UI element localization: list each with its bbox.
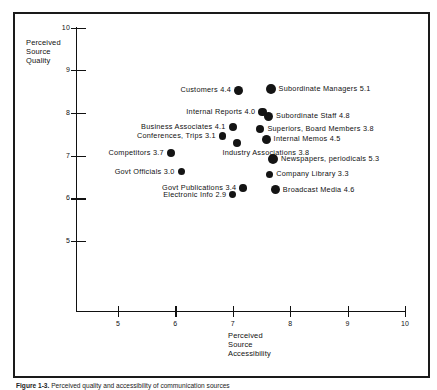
- x-tick-label-7: 7: [223, 320, 243, 327]
- data-point-marker: [239, 184, 247, 192]
- data-point-marker: [234, 86, 243, 95]
- data-point-marker: [233, 139, 241, 147]
- x-tick-7: [233, 306, 234, 317]
- data-point-label: Superiors, Board Members 3.8: [267, 125, 373, 133]
- data-point-marker: [219, 132, 226, 139]
- data-point-marker: [256, 125, 264, 133]
- data-point-label: Customers 4.4: [0, 86, 231, 94]
- data-point-label: Competitors 3.7: [0, 149, 164, 157]
- x-tick-label-8: 8: [280, 320, 300, 327]
- data-point-label: Internal Reports 4.0: [0, 108, 255, 116]
- data-point-marker: [229, 191, 236, 198]
- x-tick-8: [290, 306, 291, 317]
- x-axis-line: [76, 311, 406, 312]
- data-point-marker: [167, 149, 175, 157]
- x-tick-9: [348, 306, 349, 317]
- figure-container: Perceived Source Quality Perceived Sourc…: [0, 0, 437, 390]
- data-point-label: Subordinate Staff 4.8: [276, 112, 350, 120]
- scatter-plot: Perceived Source Quality Perceived Sourc…: [0, 0, 437, 390]
- x-tick-label-6: 6: [165, 320, 185, 327]
- x-axis-title: Perceived Source Accessibility: [228, 331, 271, 359]
- y-tick-5: [71, 241, 86, 242]
- data-point-marker: [266, 84, 276, 94]
- data-point-marker: [264, 112, 273, 121]
- data-point-label: Govt Officials 3.0: [0, 168, 175, 176]
- x-tick-10: [405, 306, 406, 317]
- data-point-label: Newspapers, periodicals 5.3: [281, 155, 379, 163]
- data-point-label: Internal Memos 4.5: [274, 135, 341, 143]
- y-axis-title: Perceived Source Quality: [26, 38, 61, 66]
- y-tick-label-10: 10: [58, 24, 70, 31]
- y-tick-label-5: 5: [58, 237, 70, 244]
- data-point-marker: [268, 154, 278, 164]
- data-point-label: Company Library 3.3: [276, 170, 348, 178]
- x-tick-label-10: 10: [395, 320, 415, 327]
- data-point-marker: [262, 135, 271, 144]
- data-point-marker: [178, 168, 185, 175]
- data-point-label: Conferences, Trips 3.1: [0, 132, 216, 140]
- x-tick-label-5: 5: [108, 320, 128, 327]
- data-point-label: Business Associates 4.1: [0, 123, 226, 131]
- y-tick-9: [71, 70, 86, 71]
- y-tick-10: [71, 28, 86, 29]
- data-point-label: Subordinate Managers 5.1: [279, 85, 371, 93]
- y-tick-label-9: 9: [58, 66, 70, 73]
- x-tick-5: [118, 306, 119, 317]
- figure-caption: Figure 1-3. Perceived quality and access…: [16, 382, 426, 390]
- x-tick-6: [175, 306, 176, 317]
- x-tick-label-9: 9: [338, 320, 358, 327]
- data-point-label: Electronic Info 2.9: [0, 191, 226, 199]
- data-point-marker: [229, 123, 238, 132]
- data-point-marker: [266, 171, 273, 178]
- data-point-label: Broadcast Media 4.6: [283, 186, 355, 194]
- data-point-marker: [271, 185, 280, 194]
